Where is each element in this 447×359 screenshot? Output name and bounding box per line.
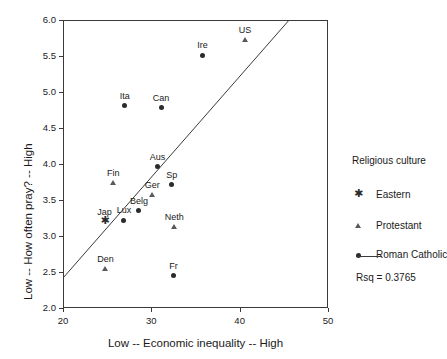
plot-area [63, 20, 328, 308]
data-point-label: Ita [120, 92, 130, 101]
legend-item-label: Roman Catholic [376, 249, 447, 260]
x-tick-label: 40 [225, 316, 255, 326]
asterisk-marker-icon: ✱ [354, 189, 362, 199]
x-tick-mark [151, 308, 152, 312]
triangle-marker-icon [110, 180, 116, 185]
x-tick-label: 30 [136, 316, 166, 326]
y-tick-label: 5.0 [26, 87, 56, 97]
data-point-label: Aus [150, 153, 166, 162]
legend-fit-line-swatch [356, 256, 382, 257]
triangle-marker-icon [171, 224, 177, 229]
y-tick-mark [59, 20, 63, 21]
data-point-label: Jap [97, 208, 112, 217]
y-tick-mark [59, 128, 63, 129]
data-point-label: Fin [107, 169, 120, 178]
data-point-label: US [239, 26, 252, 35]
y-tick-mark [59, 56, 63, 57]
data-point-label: Ger [145, 181, 160, 190]
x-tick-mark [328, 308, 329, 312]
y-tick-label: 5.5 [26, 51, 56, 61]
y-tick-label: 4.5 [26, 123, 56, 133]
triangle-marker-icon [355, 223, 361, 228]
legend-item-label: Eastern [376, 189, 410, 200]
x-tick-label: 50 [313, 316, 343, 326]
data-point-label: Neth [165, 213, 184, 222]
x-axis-title: Low -- Economic inequality -- High [0, 337, 391, 349]
data-point-label: Fr [169, 262, 178, 271]
rsq-annotation: Rsq = 0.3765 [356, 272, 416, 283]
x-tick-mark [240, 308, 241, 312]
circle-marker-icon [159, 105, 164, 110]
y-axis-title: Low -- How often pray? -- High [22, 143, 34, 300]
y-tick-mark [59, 92, 63, 93]
asterisk-marker-icon: ✱ [101, 216, 109, 226]
data-point-label: Can [153, 94, 170, 103]
triangle-marker-icon [242, 37, 248, 42]
circle-marker-icon [200, 53, 205, 58]
x-tick-label: 20 [48, 316, 78, 326]
data-point-label: Belg [130, 197, 148, 206]
triangle-marker-icon [102, 266, 108, 271]
y-tick-mark [59, 272, 63, 273]
data-point-label: Sp [166, 171, 177, 180]
data-point-label: Ire [197, 41, 208, 50]
circle-marker-icon [171, 273, 176, 278]
y-tick-mark [59, 236, 63, 237]
y-tick-mark [59, 200, 63, 201]
data-point-label: Den [97, 255, 114, 264]
y-tick-label: 6.0 [26, 15, 56, 25]
legend-title: Religious culture [352, 155, 426, 166]
x-tick-mark [63, 308, 64, 312]
data-point-label: Lux [117, 206, 132, 215]
y-tick-mark [59, 164, 63, 165]
legend-item-label: Protestant [376, 220, 422, 231]
y-tick-label: 2.0 [26, 303, 56, 313]
triangle-marker-icon [149, 192, 155, 197]
